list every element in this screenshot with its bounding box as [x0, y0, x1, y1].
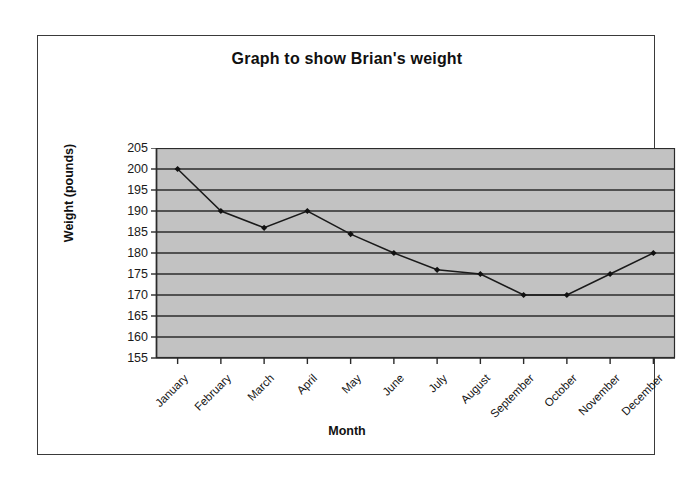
plot-area [156, 148, 675, 358]
chart-title: Graph to show Brian's weight [38, 50, 656, 68]
screenshot-page: Graph to show Brian's weight Weight (pou… [0, 0, 687, 483]
x-axis-title: Month [38, 424, 656, 438]
chart-frame: Graph to show Brian's weight Weight (pou… [37, 35, 655, 455]
y-axis-title: Weight (pounds) [62, 113, 76, 273]
line-chart-svg [96, 148, 687, 388]
